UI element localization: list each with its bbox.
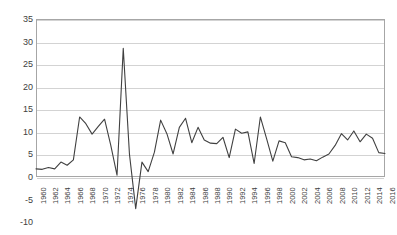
- y-tick-label: 20: [2, 83, 33, 92]
- x-tick-label: 2014: [376, 187, 384, 204]
- x-tick-label: 1990: [226, 187, 234, 204]
- x-tick-label: 1984: [189, 187, 197, 204]
- y-tick-label: 15: [2, 105, 33, 114]
- x-tick-label: 2006: [326, 187, 334, 204]
- x-tick-label: 1966: [77, 187, 85, 204]
- y-axis-tick-labels: 35302520151050-5-10: [0, 0, 33, 235]
- x-tick-label: 2016: [389, 187, 397, 204]
- y-tick-label: 5: [2, 150, 33, 159]
- y-tick-label: 25: [2, 60, 33, 69]
- x-tick-label: 2000: [289, 187, 297, 204]
- x-tick-label: 2010: [351, 187, 359, 204]
- plot-area: [36, 19, 385, 177]
- gridline: [37, 20, 384, 21]
- x-tick-label: 1980: [164, 187, 172, 204]
- gridline: [37, 43, 384, 44]
- x-tick-label: 2002: [301, 187, 309, 204]
- x-tick-label: 1976: [139, 187, 147, 204]
- x-tick-label: 1992: [239, 187, 247, 204]
- y-tick-label: 0: [2, 173, 33, 182]
- gridline: [37, 155, 384, 156]
- x-tick-label: 1962: [52, 187, 60, 204]
- gridline: [37, 65, 384, 66]
- y-tick-label: 30: [2, 38, 33, 47]
- x-tick-label: 1982: [177, 187, 185, 204]
- x-tick-label: 1988: [214, 187, 222, 204]
- x-tick-label: 1994: [251, 187, 259, 204]
- x-tick-label: 1998: [276, 187, 284, 204]
- x-tick-label: 2004: [314, 187, 322, 204]
- x-tick-label: 1972: [114, 187, 122, 204]
- x-tick-label: 1986: [202, 187, 210, 204]
- x-tick-label: 1996: [264, 187, 272, 204]
- x-tick-label: 1968: [89, 187, 97, 204]
- y-tick-label: 10: [2, 128, 33, 137]
- x-tick-label: 1970: [102, 187, 110, 204]
- gridline: [37, 133, 384, 134]
- x-tick-label: 2012: [364, 187, 372, 204]
- gridline: [37, 88, 384, 89]
- x-tick-label: 1960: [40, 187, 48, 204]
- y-tick-label: 35: [2, 15, 33, 24]
- y-tick-label: -5: [2, 196, 33, 205]
- x-tick-label: 1964: [64, 187, 72, 204]
- x-axis-tick-labels: 1960196219641966196819701972197419761978…: [36, 178, 385, 218]
- y-tick-label: -10: [2, 218, 33, 227]
- x-tick-label: 1978: [152, 187, 160, 204]
- x-tick-label: 1974: [127, 187, 135, 204]
- x-tick-label: 2008: [339, 187, 347, 204]
- gridline: [37, 110, 384, 111]
